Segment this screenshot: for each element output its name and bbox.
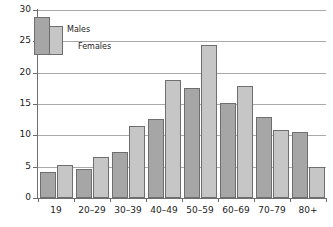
- y-tick-label: 5: [1, 162, 31, 171]
- x-tick-mark: [254, 198, 255, 202]
- y-tick-label: 10: [1, 130, 31, 139]
- x-tick-mark: [146, 198, 147, 202]
- y-tick-label: 20: [1, 68, 31, 77]
- bar-males-7079: [256, 117, 272, 198]
- bar-males-6069: [220, 103, 236, 198]
- bar-females-3039: [129, 126, 145, 198]
- legend-label-males: Males: [67, 26, 90, 34]
- x-tick-mark: [38, 198, 39, 202]
- legend-label-females: Females: [78, 43, 111, 51]
- x-tick-mark: [290, 198, 291, 202]
- bar-males-2029: [76, 169, 92, 198]
- bar-females-6069: [237, 86, 253, 198]
- y-tick-label: 15: [1, 99, 31, 108]
- bar-females-2029: [93, 157, 109, 198]
- x-tick-label-6069: 60–69: [218, 204, 254, 216]
- x-tick-label-7079: 70–79: [254, 204, 290, 216]
- bar-males-80+: [292, 132, 308, 198]
- x-tick-mark: [110, 198, 111, 202]
- bar-females-7079: [273, 130, 289, 198]
- y-tick: 0: [0, 193, 31, 202]
- y-tick: 5: [0, 162, 31, 171]
- bar-females-80+: [309, 167, 325, 198]
- bar-males-3039: [112, 152, 128, 198]
- legend: Males Females: [34, 17, 154, 63]
- bar-males-4049: [148, 119, 164, 198]
- y-tick: 20: [0, 68, 31, 77]
- x-tick-label-19: 19: [38, 204, 74, 216]
- y-tick-label: 25: [1, 36, 31, 45]
- x-tick-label-5059: 50–59: [182, 204, 218, 216]
- x-tick-label-4049: 40–49: [146, 204, 182, 216]
- x-tick-mark: [218, 198, 219, 202]
- y-tick: 25: [0, 36, 31, 45]
- y-tick: 30: [0, 5, 31, 14]
- x-tick-mark: [326, 198, 327, 202]
- bar-females-5059: [201, 45, 217, 198]
- x-tick-label-2029: 20–29: [74, 204, 110, 216]
- x-tick-mark: [74, 198, 75, 202]
- legend-swatch-females: [49, 26, 63, 55]
- y-tick: 15: [0, 99, 31, 108]
- y-tick-label: 0: [1, 193, 31, 202]
- x-tick-label-3039: 30–39: [110, 204, 146, 216]
- bar-females-19: [57, 165, 73, 198]
- x-tick-mark: [182, 198, 183, 202]
- y-tick: 10: [0, 130, 31, 139]
- legend-swatch-males: [34, 17, 50, 55]
- bar-females-4049: [165, 80, 181, 198]
- y-tick-label: 30: [1, 5, 31, 14]
- bar-males-5059: [184, 88, 200, 198]
- bar-males-19: [40, 172, 56, 198]
- x-tick-label-80+: 80+: [290, 204, 326, 216]
- bar-chart: 051015202530 1920–2930–3940–4950–5960–69…: [0, 0, 333, 227]
